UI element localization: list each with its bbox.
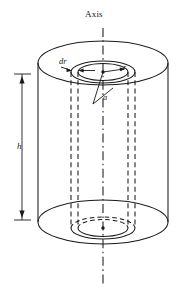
height-top-arrowhead [19,76,24,84]
bottom-center-dot [101,226,104,229]
height-bottom-arrowhead [19,211,24,219]
radius-a-leader-line-upper [93,72,103,104]
thickness-dr-label: dr [59,57,67,66]
cylinder-shell-diagram: Axis dr r a h [0,0,193,291]
outer-radius-a-label: a [103,93,107,102]
radius-r-label: r [123,64,126,72]
height-h-label: h [17,142,22,151]
axis-label: Axis [85,10,103,19]
diagram-canvas [0,0,193,291]
